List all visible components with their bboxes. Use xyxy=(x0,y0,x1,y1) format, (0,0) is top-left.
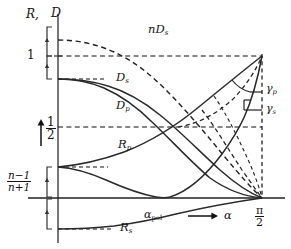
Dp-subscript: p xyxy=(125,104,130,113)
Rp-main: R xyxy=(118,137,127,151)
curve-Rs-rising xyxy=(58,56,262,167)
curve-label-Rs: Rs xyxy=(120,222,132,234)
pi-numerator: π xyxy=(255,205,264,216)
curve-label-Ds: Ds xyxy=(116,72,129,84)
gamma-s-subscript: s xyxy=(273,108,277,116)
Dp-main: D xyxy=(116,98,125,112)
brace-upper-mid xyxy=(45,56,52,79)
curve-nDs xyxy=(58,40,262,198)
gamma-s-main: γ xyxy=(266,102,273,115)
nDs-subscript: s xyxy=(165,28,169,37)
pi-denominator: 2 xyxy=(255,216,264,228)
brace-bottom xyxy=(45,199,52,229)
nfrac-numerator: n−1 xyxy=(7,170,31,181)
curve-dashed-apex-tail xyxy=(214,96,262,198)
axis-label-R: R, xyxy=(26,8,39,20)
tick-label-one: 1 xyxy=(27,49,35,61)
curve-dashed-aux-p xyxy=(202,110,262,198)
axis-label-alpha: α xyxy=(224,210,232,222)
curve-Ds xyxy=(58,79,262,198)
Rs-main: R xyxy=(120,220,129,234)
nDs-main: nD xyxy=(148,22,165,36)
figure-container: R, D 1 1 2 n−1 n+1 nDs Ds Dp Rp Rs γp γs… xyxy=(0,0,291,249)
half-direction-arrow xyxy=(38,119,45,146)
curve-label-Rp: Rp xyxy=(118,139,131,151)
gamma-p-subscript: p xyxy=(273,88,277,96)
axis-label-D: D xyxy=(51,7,61,20)
Rp-subscript: p xyxy=(127,143,132,152)
annotation-alpha-pol: αpol xyxy=(144,209,162,221)
annotation-gamma-p: γp xyxy=(266,83,277,95)
half-denominator: 2 xyxy=(46,128,56,141)
alpha-pol-subscript: pol xyxy=(151,214,162,222)
x-tick-label-pi-over-two: π 2 xyxy=(255,205,264,228)
brace-lower xyxy=(45,167,52,197)
brace-top xyxy=(45,27,52,56)
tick-label-n-fraction: n−1 n+1 xyxy=(7,170,31,192)
nfrac-denominator: n+1 xyxy=(7,181,31,193)
half-numerator: 1 xyxy=(46,116,56,128)
tick-label-half: 1 2 xyxy=(46,116,56,141)
alpha-direction-arrow xyxy=(188,213,218,220)
Rs-subscript: s xyxy=(129,226,133,235)
gamma-s-bracket xyxy=(244,100,262,110)
curve-label-Dp: Dp xyxy=(116,100,130,112)
annotation-gamma-s: γs xyxy=(266,103,276,115)
curve-label-nDs: nDs xyxy=(148,24,168,36)
Ds-subscript: s xyxy=(125,76,129,85)
gamma-p-main: γ xyxy=(266,82,273,95)
Ds-main: D xyxy=(116,70,125,84)
